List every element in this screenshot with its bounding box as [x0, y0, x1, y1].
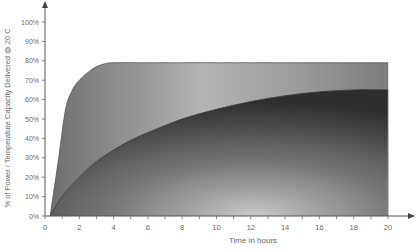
x-tick-label: 14 [281, 223, 289, 232]
plot-area [50, 63, 388, 216]
chart-container: 0%10%20%30%40%50%60%70%80%90%100%0246810… [0, 0, 418, 252]
x-tick-label: 16 [315, 223, 323, 232]
y-tick-label: 90% [25, 38, 39, 45]
y-tick-label: 40% [25, 135, 39, 142]
x-tick-label: 10 [212, 223, 220, 232]
y-axis-arrow-icon [42, 1, 48, 8]
x-tick-label: 20 [384, 223, 392, 232]
y-tick-label: 0% [29, 213, 39, 220]
y-tick-label: 30% [25, 154, 39, 161]
x-tick-label: 0 [43, 223, 47, 232]
y-tick-label: 80% [25, 57, 39, 64]
x-tick-label: 4 [112, 223, 116, 232]
y-tick-label: 10% [25, 193, 39, 200]
x-axis-label: Time in hours [229, 236, 277, 245]
x-tick-label: 8 [180, 223, 184, 232]
x-tick-label: 2 [77, 223, 81, 232]
x-tick-label: 12 [247, 223, 255, 232]
x-tick-label: 6 [146, 223, 150, 232]
y-tick-label: 50% [25, 116, 39, 123]
y-tick-label: 70% [25, 77, 39, 84]
y-axis-label: % of Power / Temperature Capacity Delive… [3, 28, 12, 208]
y-tick-label: 100% [21, 19, 39, 26]
x-axis-arrow-icon [408, 213, 415, 219]
y-tick-label: 60% [25, 96, 39, 103]
x-tick-label: 18 [350, 223, 358, 232]
area-chart: 0%10%20%30%40%50%60%70%80%90%100%0246810… [0, 0, 418, 252]
y-tick-label: 20% [25, 174, 39, 181]
